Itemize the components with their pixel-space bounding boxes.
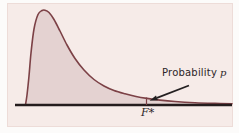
annotation-arrow-line [157,86,189,98]
probability-variable: p [220,67,227,78]
probability-annotation: Probabilityp [162,67,227,78]
figure-canvas: Probabilityp F* [0,0,239,133]
f-star-tick-label: F* [141,106,154,119]
probability-annotation-text: Probability [162,67,217,78]
